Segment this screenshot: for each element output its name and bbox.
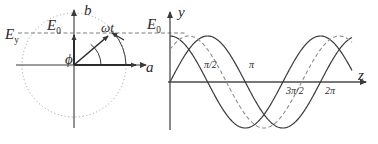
- tick-label-pi: π: [249, 60, 254, 70]
- label-phase-angle-phi: ϕ: [65, 52, 73, 67]
- label-E0-right: E0: [147, 17, 161, 35]
- rotating-phasor-arrow: [74, 36, 108, 65]
- tick-label-pi-over-2: π/2: [204, 60, 217, 70]
- axis-label-z: z: [358, 68, 364, 83]
- axis-label-y: y: [178, 5, 185, 20]
- axis-label-a: a: [146, 60, 154, 75]
- axis-label-b: b: [84, 3, 92, 18]
- label-Ey-amplitude: Ey: [5, 27, 19, 45]
- figure-canvas: Ey E0 b a ωt ϕ E0 y z π/2 π 3π/2 2π: [0, 0, 378, 144]
- label-E0-left: E0: [47, 18, 61, 36]
- tick-label-3pi-over-2: 3π/2: [286, 86, 304, 96]
- label-omega-t: ωt: [101, 21, 114, 34]
- tick-label-2pi: 2π: [325, 86, 335, 96]
